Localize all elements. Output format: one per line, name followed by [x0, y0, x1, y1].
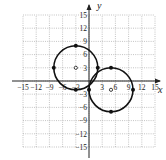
- data-point: [74, 88, 78, 92]
- y-tick-label: −6: [79, 103, 87, 112]
- y-tick-label: 6: [83, 50, 87, 59]
- y-axis-arrow-icon: [87, 4, 92, 10]
- data-point: [131, 88, 135, 92]
- data-point: [109, 110, 113, 114]
- y-tick-label: −9: [79, 116, 87, 125]
- data-point: [87, 88, 91, 92]
- y-tick-label: 15: [80, 11, 88, 20]
- data-point: [52, 66, 56, 70]
- y-axis-label: y: [96, 0, 102, 11]
- y-tick-label: 9: [83, 37, 87, 46]
- data-point: [74, 44, 78, 48]
- coordinate-plane: −15−12−9−6−33691215−15−12−9−6−33691215 x…: [0, 0, 166, 160]
- x-tick-label: −9: [45, 83, 53, 92]
- x-tick-label: 3: [100, 83, 104, 92]
- x-tick-label: 6: [114, 83, 118, 92]
- data-point: [109, 66, 113, 70]
- x-tick-label: −12: [30, 83, 42, 92]
- x-axis-label: x: [157, 84, 163, 95]
- x-tick-label: 9: [127, 83, 131, 92]
- x-tick-label: −15: [17, 83, 29, 92]
- y-tick-label: −12: [75, 130, 87, 139]
- y-tick-label: −15: [75, 143, 87, 152]
- data-point: [96, 66, 100, 70]
- center-point: [109, 88, 112, 91]
- center-point: [74, 66, 77, 69]
- y-tick-label: −3: [79, 90, 87, 99]
- x-tick-label: 12: [138, 83, 146, 92]
- y-tick-label: 3: [83, 64, 87, 73]
- y-tick-label: 12: [80, 24, 88, 33]
